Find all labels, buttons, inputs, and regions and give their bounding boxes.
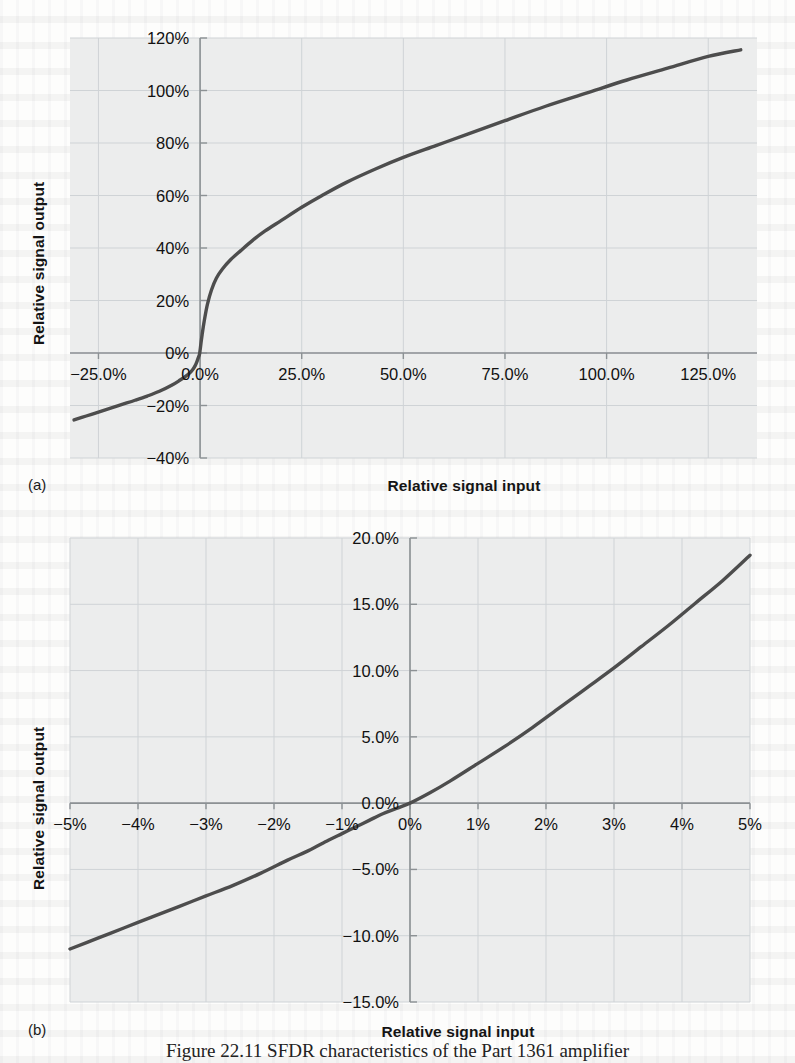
chart-a: −40%−20%0%20%40%60%80%100%120%−25.0%0.0%…	[0, 0, 795, 510]
chart-b-x-tick: 0%	[398, 815, 422, 833]
chart-b: −15.0%−10.0%−5.0%0.0%5.0%10.0%15.0%20.0%…	[0, 505, 795, 1050]
chart-b-y-tick: 20.0%	[352, 529, 399, 547]
chart-a-x-tick: 25.0%	[278, 365, 325, 383]
chart-b-x-tick: −5%	[53, 815, 87, 833]
chart-a-y-tick: 20%	[156, 292, 189, 310]
chart-b-y-tick: −5.0%	[352, 860, 400, 878]
chart-b-x-tick: −1%	[325, 815, 359, 833]
chart-a-y-axis-title: Relative signal output	[30, 182, 48, 345]
chart-b-y-tick: 5.0%	[361, 728, 399, 746]
chart-a-y-tick: 60%	[156, 187, 189, 205]
chart-a-x-axis-title: Relative signal input	[172, 477, 756, 495]
chart-a-x-tick: 75.0%	[482, 365, 529, 383]
chart-a-x-tick: 100.0%	[579, 365, 635, 383]
chart-b-y-tick: −10.0%	[343, 927, 400, 945]
chart-a-y-tick: −20%	[146, 397, 189, 415]
chart-b-x-tick: 1%	[466, 815, 490, 833]
chart-a-x-tick: 125.0%	[680, 365, 736, 383]
chart-a-x-tick: 0.0%	[181, 365, 219, 383]
chart-a-y-tick: −40%	[146, 449, 189, 467]
chart-b-x-tick: −4%	[121, 815, 155, 833]
chart-a-y-tick: 120%	[147, 29, 190, 47]
chart-a-y-tick: 40%	[156, 239, 189, 257]
chart-b-y-tick: 0.0%	[361, 794, 399, 812]
figure-panel-a: −40%−20%0%20%40%60%80%100%120%−25.0%0.0%…	[0, 0, 795, 510]
chart-a-y-tick: 100%	[147, 82, 190, 100]
chart-b-x-tick: −2%	[257, 815, 291, 833]
panel-label-b: (b)	[28, 1021, 46, 1038]
chart-b-x-tick: 3%	[602, 815, 626, 833]
chart-a-y-tick: 80%	[156, 134, 189, 152]
chart-a-y-tick: 0%	[165, 344, 189, 362]
chart-a-x-tick: 50.0%	[380, 365, 427, 383]
chart-b-y-tick: 10.0%	[352, 662, 399, 680]
figure-panel-b: −15.0%−10.0%−5.0%0.0%5.0%10.0%15.0%20.0%…	[0, 505, 795, 1063]
chart-b-x-tick: −3%	[189, 815, 223, 833]
chart-b-y-tick: −15.0%	[343, 993, 400, 1011]
chart-b-x-tick: 4%	[670, 815, 694, 833]
chart-b-y-axis-title: Relative signal output	[30, 727, 48, 890]
chart-b-x-tick: 2%	[534, 815, 558, 833]
figure-caption: Figure 22.11 SFDR characteristics of the…	[0, 1040, 795, 1062]
chart-b-y-tick: 15.0%	[352, 595, 399, 613]
chart-b-x-tick: 5%	[738, 815, 762, 833]
chart-a-x-tick: −25.0%	[70, 365, 127, 383]
panel-label-a: (a)	[28, 476, 46, 493]
chart-b-x-axis-title: Relative signal input	[166, 1023, 750, 1041]
